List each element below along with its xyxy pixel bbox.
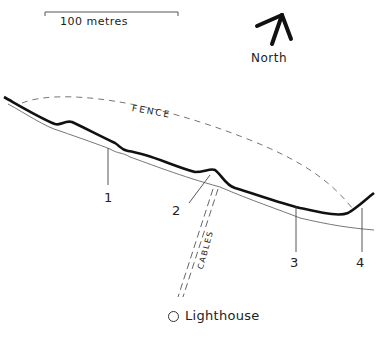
point-label-4: 4 bbox=[356, 255, 364, 270]
map-drawing bbox=[0, 0, 376, 340]
scale-label: 100 metres bbox=[60, 15, 128, 28]
north-label: North bbox=[251, 51, 287, 65]
marker-2 bbox=[189, 175, 210, 203]
coastline bbox=[4, 97, 374, 214]
lighthouse-label: Lighthouse bbox=[185, 308, 260, 323]
north-arrow-icon bbox=[257, 15, 291, 44]
point-label-3: 3 bbox=[290, 255, 298, 270]
point-label-2: 2 bbox=[172, 203, 180, 218]
point-label-1: 1 bbox=[104, 190, 112, 205]
fence-line bbox=[22, 97, 352, 208]
lighthouse-circle-icon bbox=[168, 311, 179, 322]
